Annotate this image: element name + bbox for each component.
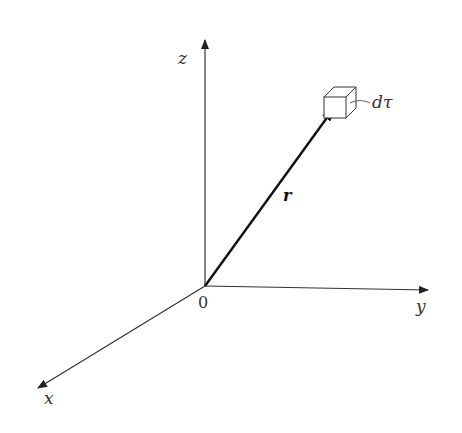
dtau-leader-line xyxy=(350,101,370,104)
x-axis-label: x xyxy=(44,388,54,408)
z-axis-label: z xyxy=(177,48,188,68)
x-axis xyxy=(38,286,205,388)
origin-label: 0 xyxy=(198,293,208,312)
coordinate-diagram: z y x 0 r dτ xyxy=(0,0,462,433)
vector-r-label: r xyxy=(283,186,293,205)
y-axis xyxy=(205,286,428,290)
dtau-label: dτ xyxy=(372,92,393,112)
position-vector-r xyxy=(205,108,334,286)
y-axis-label: y xyxy=(415,296,426,316)
